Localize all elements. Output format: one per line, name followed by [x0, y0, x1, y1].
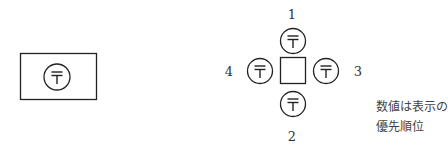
- postal-mark-icon: [314, 59, 339, 84]
- priority-label-right: 3: [354, 64, 362, 79]
- priority-label-top: 1: [288, 7, 296, 22]
- priority-label-bottom: 2: [288, 129, 296, 144]
- center-square: [281, 58, 306, 84]
- priority-label-left: 4: [225, 64, 233, 79]
- postal-mark-icon: [44, 64, 70, 90]
- postal-mark-icon: [248, 59, 273, 84]
- left-postal-symbol: [21, 54, 97, 100]
- left-frame-rectangle: [21, 54, 97, 100]
- right-priority-symbol: 1 2 3 4: [225, 7, 362, 144]
- note-line-1: 数値は表示の: [376, 101, 448, 113]
- postal-mark-icon: [281, 29, 306, 54]
- postal-mark-icon: [281, 92, 306, 117]
- note-line-2: 優先順位: [376, 121, 424, 133]
